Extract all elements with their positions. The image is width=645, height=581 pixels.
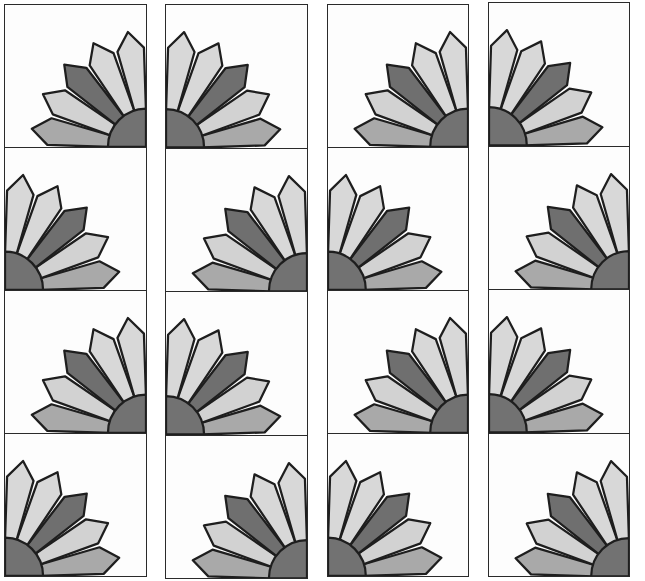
- quilt-block: [327, 290, 469, 434]
- fan-graphic: [5, 148, 146, 290]
- fan-graphic: [166, 5, 307, 148]
- quilt-block: [4, 433, 147, 577]
- fan-graphic: [166, 436, 307, 579]
- fan-graphic: [489, 434, 629, 577]
- fan-graphic: [489, 290, 629, 433]
- fan-graphic: [489, 147, 629, 290]
- fan-graphic: [328, 5, 468, 147]
- quilt-block: [4, 147, 147, 291]
- fan-graphic: [328, 148, 468, 290]
- quilt-block: [165, 291, 308, 436]
- quilt-strip-1: [4, 4, 147, 576]
- quilt-layout: [0, 0, 645, 581]
- quilt-block: [327, 433, 469, 577]
- quilt-block: [488, 433, 630, 578]
- quilt-block: [488, 2, 630, 147]
- quilt-strip-3: [327, 4, 469, 576]
- quilt-block: [488, 289, 630, 434]
- quilt-block: [327, 147, 469, 291]
- quilt-block: [4, 4, 147, 148]
- fan-graphic: [166, 292, 307, 435]
- fan-graphic: [5, 434, 146, 576]
- quilt-block: [165, 148, 308, 293]
- fan-graphic: [328, 291, 468, 433]
- fan-graphic: [328, 434, 468, 576]
- quilt-strip-2: [165, 4, 308, 578]
- quilt-block: [327, 4, 469, 148]
- fan-graphic: [5, 5, 146, 147]
- fan-graphic: [166, 149, 307, 292]
- fan-graphic: [5, 291, 146, 433]
- quilt-block: [488, 146, 630, 291]
- quilt-block: [165, 435, 308, 580]
- quilt-block: [165, 4, 308, 149]
- quilt-block: [4, 290, 147, 434]
- fan-graphic: [489, 3, 629, 146]
- quilt-strip-4: [488, 2, 630, 576]
